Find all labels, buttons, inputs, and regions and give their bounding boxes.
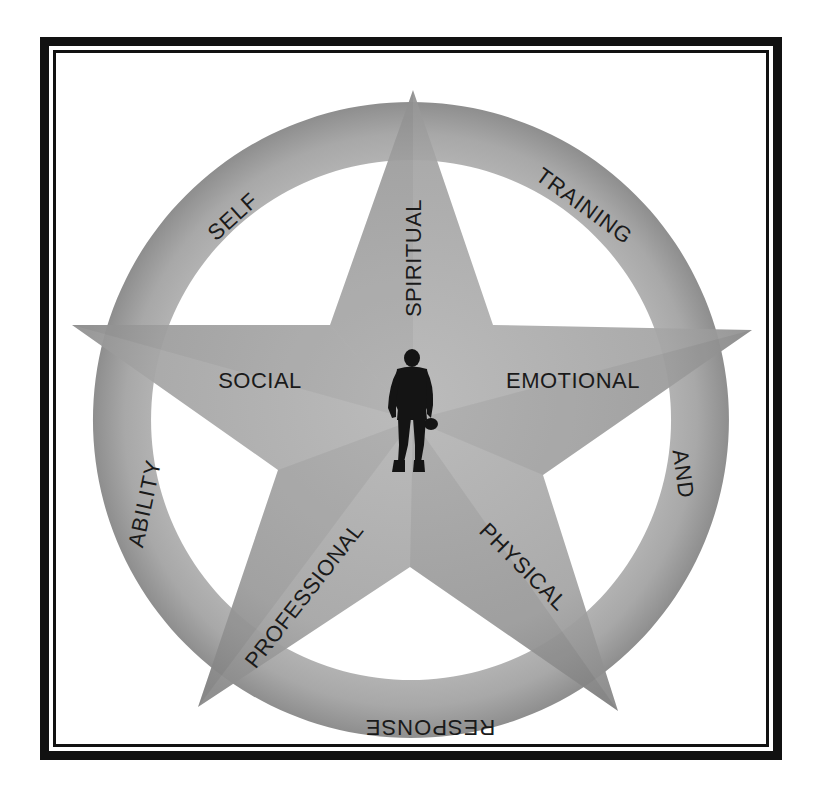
star-ring-diagram: SELF TRAINING AND RESPONSE ABILITY SPIRI…: [0, 0, 822, 800]
star-label-social: SOCIAL: [218, 368, 302, 393]
star-label-emotional: EMOTIONAL: [506, 368, 640, 393]
star-label-spiritual: SPIRITUAL: [401, 199, 426, 317]
ring-label-response: RESPONSE: [365, 715, 495, 740]
